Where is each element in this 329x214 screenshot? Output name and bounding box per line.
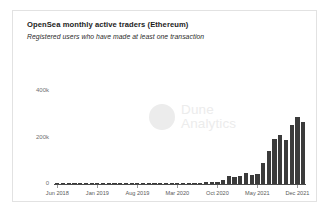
x-axis-tick-mark <box>137 185 138 188</box>
chart-screenshot: OpenSea monthly active traders (Ethereum… <box>0 0 329 214</box>
x-axis-tick-label: Oct 2020 <box>206 190 229 196</box>
x-axis-tick-mark <box>257 185 258 188</box>
x-axis-tick-label: Dec 2021 <box>285 190 309 196</box>
bar[interactable] <box>284 140 288 184</box>
x-axis-tick-mark <box>177 185 178 188</box>
bar[interactable] <box>272 139 276 184</box>
x-axis-tick-label: Aug 2019 <box>125 190 149 196</box>
bars-layer <box>13 11 317 202</box>
x-axis-tick-label: Jan 2019 <box>86 190 109 196</box>
x-axis-tick-label: Jun 2018 <box>46 190 69 196</box>
x-axis-tick-mark <box>217 185 218 188</box>
bar[interactable] <box>244 173 248 184</box>
bar[interactable] <box>290 125 294 184</box>
bar[interactable] <box>301 122 305 184</box>
bar[interactable] <box>255 174 259 184</box>
x-axis-tick-mark <box>297 185 298 188</box>
plot-area: Dune Analytics 0200k400k Jun 2018Jan 201… <box>13 11 317 202</box>
chart-card: OpenSea monthly active traders (Ethereum… <box>12 10 317 202</box>
bar[interactable] <box>278 135 282 184</box>
bar[interactable] <box>250 175 254 184</box>
bar[interactable] <box>238 176 242 184</box>
x-axis-tick-mark <box>57 185 58 188</box>
x-axis-tick-mark <box>97 185 98 188</box>
bar[interactable] <box>295 117 299 184</box>
bar[interactable] <box>267 151 271 184</box>
bar[interactable] <box>261 163 265 184</box>
bar[interactable] <box>232 177 236 184</box>
x-axis-tick-label: May 2021 <box>245 190 270 196</box>
x-axis-line <box>54 184 306 185</box>
x-axis-tick-label: Mar 2020 <box>166 190 190 196</box>
bar[interactable] <box>227 176 231 184</box>
